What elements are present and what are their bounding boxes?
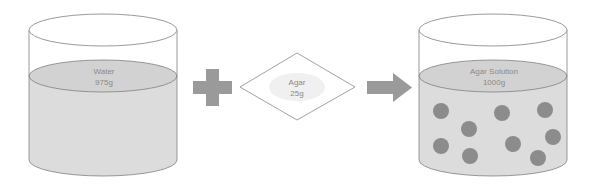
arrow-right-icon: [367, 73, 412, 102]
solution-name: Agar Solution: [470, 66, 518, 77]
solution-beaker-rim: [419, 14, 567, 46]
plus-icon: [193, 69, 232, 106]
solution-label: Agar Solution 1000g: [470, 66, 518, 88]
agar-particle: [530, 150, 546, 166]
water-mass: 975g: [93, 77, 114, 88]
water-name: Water: [93, 66, 114, 77]
water-beaker-rim: [29, 14, 177, 46]
agar-name: Agar: [289, 77, 306, 88]
agar-particle: [433, 103, 449, 119]
solution-beaker: [419, 14, 567, 176]
agar-particle: [505, 136, 521, 152]
agar-particle: [494, 105, 510, 121]
agar-particle: [545, 129, 561, 145]
agar-mass: 25g: [289, 88, 306, 99]
agar-particle: [462, 148, 478, 164]
agar-particle: [433, 138, 449, 154]
agar-particle: [461, 121, 477, 137]
water-beaker: [29, 14, 177, 176]
agar-particle: [537, 102, 553, 118]
agar-label: Agar 25g: [289, 77, 306, 99]
water-label: Water 975g: [93, 66, 114, 88]
solution-mass: 1000g: [470, 77, 518, 88]
